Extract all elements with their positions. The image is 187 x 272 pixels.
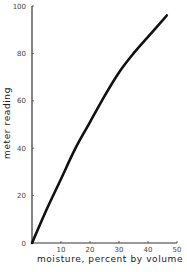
chart: 020406080100 1020304050 meter reading mo… (0, 0, 187, 272)
x-tick-label: 30 (115, 246, 124, 254)
y-tick-label: 40 (17, 145, 26, 153)
y-axis: 020406080100 (13, 3, 34, 248)
data-line (32, 16, 167, 244)
x-tick-label: 40 (144, 246, 153, 254)
y-tick-label: 0 (22, 240, 26, 248)
y-tick-label: 20 (17, 192, 26, 200)
x-tick-label: 50 (173, 246, 182, 254)
x-tick-label: 20 (86, 246, 95, 254)
y-tick-label: 60 (17, 97, 26, 105)
x-axis: 1020304050 (32, 241, 181, 254)
y-tick-label: 80 (17, 50, 26, 58)
y-axis-title: meter reading (2, 87, 12, 159)
x-axis-title: moisture, percent by volume (37, 254, 183, 264)
x-tick-label: 10 (57, 246, 66, 254)
y-tick-label: 100 (13, 3, 26, 11)
